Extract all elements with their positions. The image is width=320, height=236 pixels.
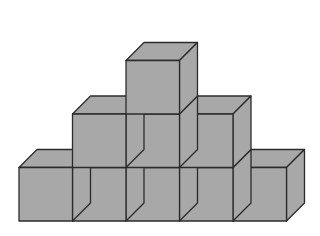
cube-stack-figure: Isometric-style stack of 9 identical gra… (0, 0, 320, 236)
cube-front-face (73, 114, 127, 168)
cube-front-face (19, 168, 73, 222)
cube-front-face (126, 61, 180, 115)
cube-L3-C2 (126, 43, 198, 115)
cube-stack-svg (0, 0, 320, 236)
